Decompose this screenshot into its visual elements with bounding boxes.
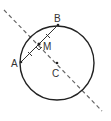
label-b: B <box>54 13 61 24</box>
geometry-diagram: A B M C <box>0 0 111 121</box>
perpendicular-bisector-line <box>4 10 102 111</box>
label-m: M <box>43 41 51 52</box>
point-a <box>20 61 23 64</box>
point-c <box>56 62 59 65</box>
point-b <box>57 24 60 27</box>
point-m <box>37 42 40 45</box>
right-angle-marker <box>36 47 42 50</box>
label-c: C <box>52 68 59 79</box>
label-a: A <box>11 58 18 69</box>
